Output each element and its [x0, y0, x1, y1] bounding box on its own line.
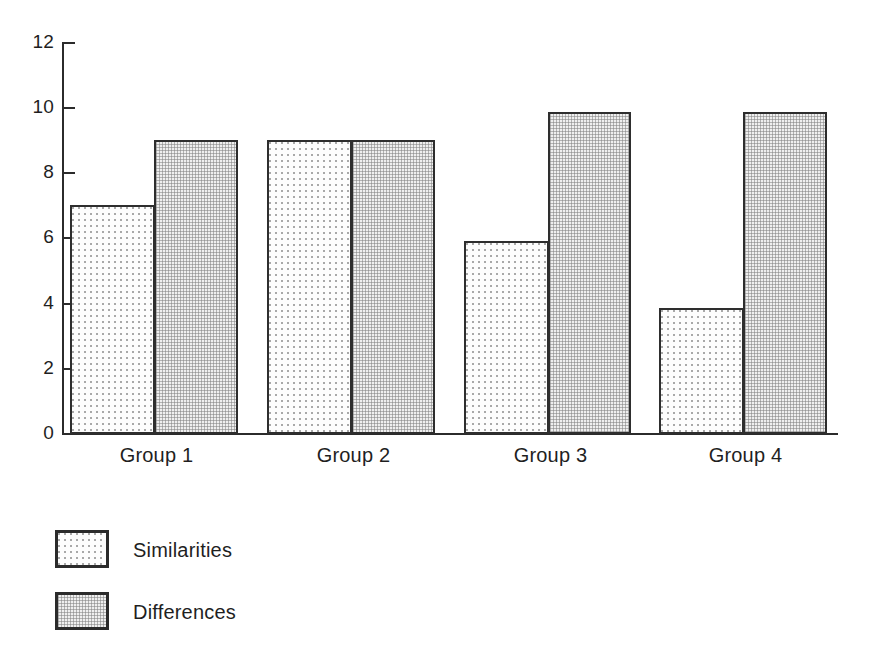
x-axis-label-group4: Group 4: [663, 444, 828, 466]
bar-group2-similarities: [267, 140, 352, 434]
legend-label-similarities: Similarities: [133, 539, 232, 561]
legend-swatch-differences: [55, 592, 109, 630]
plot-area: 12 10 8 6 4 2 0: [0, 0, 874, 500]
bar-group3-differences: [548, 112, 631, 434]
bar-chart-figure: 12 10 8 6 4 2 0: [0, 0, 874, 659]
bar-group3-similarities: [464, 241, 549, 434]
bar-group1-similarities: [70, 205, 155, 434]
x-axis-label-group3: Group 3: [468, 444, 633, 466]
bar-group4-differences: [743, 112, 827, 434]
bar-group2-differences: [351, 140, 435, 434]
x-axis-label-group2: Group 2: [271, 444, 436, 466]
legend-swatch-similarities: [55, 530, 109, 568]
bar-group4-similarities: [659, 308, 744, 434]
legend-label-differences: Differences: [133, 601, 236, 623]
x-axis-label-group1: Group 1: [74, 444, 239, 466]
bars-layer: [0, 0, 874, 500]
bar-group1-differences: [154, 140, 238, 434]
